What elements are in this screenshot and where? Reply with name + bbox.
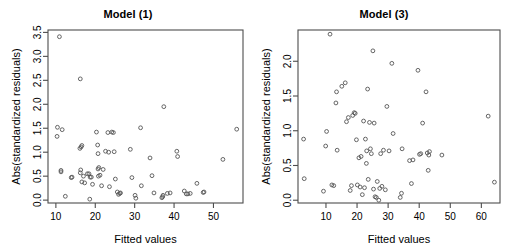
data-point <box>106 131 110 135</box>
data-point <box>139 126 143 130</box>
data-point <box>391 132 395 136</box>
x-axis-title: Fitted values <box>368 233 431 245</box>
data-point <box>366 87 370 91</box>
x-axis-title: Fitted values <box>114 233 177 245</box>
data-point <box>82 174 86 178</box>
data-point <box>235 127 239 131</box>
y-tick-label: 1.0 <box>32 145 43 159</box>
y-tick-label: 2.0 <box>32 97 43 111</box>
x-tick-label: 10 <box>50 211 62 222</box>
data-point <box>426 168 430 172</box>
data-point <box>108 185 112 189</box>
y-tick-label: 1.5 <box>282 89 293 103</box>
x-tick-label: 30 <box>383 211 395 222</box>
data-point <box>400 147 404 151</box>
data-point <box>128 147 132 151</box>
data-point <box>419 152 423 156</box>
data-point <box>366 177 370 181</box>
data-point <box>365 149 369 153</box>
y-tick-label: 1.5 <box>32 121 43 135</box>
data-point <box>355 138 359 142</box>
data-point <box>348 189 352 193</box>
data-point <box>377 198 381 202</box>
data-point <box>58 35 62 39</box>
data-point <box>400 191 404 195</box>
data-point <box>358 185 362 189</box>
data-point <box>335 90 339 94</box>
data-point <box>410 182 414 186</box>
data-point <box>176 155 180 159</box>
data-point <box>340 84 344 88</box>
data-point <box>387 149 391 153</box>
data-point <box>486 114 490 118</box>
data-point <box>371 49 375 53</box>
data-point <box>364 162 368 166</box>
scatter-plot-figure: Model (1) 10203040500.00.51.01.52.02.53.… <box>0 0 513 249</box>
y-tick-label: 0.0 <box>32 193 43 207</box>
data-point <box>346 116 350 120</box>
data-point <box>369 147 373 151</box>
x-tick-label: 40 <box>414 211 426 222</box>
data-point <box>421 121 425 125</box>
data-point <box>101 168 105 172</box>
data-point <box>130 176 134 180</box>
data-point <box>139 184 143 188</box>
data-point <box>152 191 156 195</box>
data-point <box>360 193 364 197</box>
y-tick-label: 2.5 <box>32 73 43 87</box>
data-point <box>148 156 152 160</box>
data-point <box>324 144 328 148</box>
data-point <box>322 189 326 193</box>
data-point <box>372 187 376 191</box>
data-point <box>390 61 394 65</box>
y-axis-title: Abs(standardized residuals) <box>10 48 22 184</box>
data-point <box>162 105 166 109</box>
data-point <box>385 105 389 109</box>
x-tick-label: 10 <box>320 211 332 222</box>
data-point <box>345 120 349 124</box>
data-point <box>302 177 306 181</box>
data-point <box>60 128 64 132</box>
data-point <box>398 196 402 200</box>
x-tick-label: 20 <box>90 211 102 222</box>
data-point <box>375 180 379 184</box>
data-point <box>302 137 306 141</box>
x-tick-label: 20 <box>351 211 363 222</box>
x-tick-label: 30 <box>129 211 141 222</box>
x-tick-label: 40 <box>168 211 180 222</box>
panel-model-1: Model (1) 10203040500.00.51.01.52.02.53.… <box>0 0 256 249</box>
data-point <box>56 125 60 129</box>
data-point <box>440 153 444 157</box>
x-tick-label: 60 <box>476 211 488 222</box>
data-point <box>334 101 338 105</box>
data-point <box>325 130 329 134</box>
plot-area-model-3: 1020304050600.00.51.01.52.0Fitted values… <box>256 0 513 249</box>
data-point <box>96 143 100 147</box>
data-point <box>88 197 92 201</box>
data-point <box>364 137 368 141</box>
y-tick-label: 0.0 <box>282 193 293 207</box>
data-point <box>368 121 372 125</box>
data-point <box>112 150 116 154</box>
data-point <box>113 177 117 181</box>
data-point <box>188 192 192 196</box>
data-point <box>175 149 179 153</box>
data-point <box>78 77 82 81</box>
data-point <box>362 119 366 123</box>
plot-frame <box>48 30 243 203</box>
y-tick-label: 3.0 <box>32 49 43 63</box>
plot-frame <box>298 30 500 203</box>
data-point <box>493 180 497 184</box>
y-tick-label: 0.5 <box>32 169 43 183</box>
data-point <box>416 68 420 72</box>
data-point <box>363 186 367 190</box>
data-point <box>379 152 383 156</box>
x-tick-label: 50 <box>445 211 457 222</box>
y-axis-title: Abs(standardized residuals) <box>260 48 272 184</box>
data-point <box>335 148 339 152</box>
panel-model-3: Model (3) 1020304050600.00.51.01.52.0Fit… <box>256 0 512 249</box>
data-point <box>150 174 154 178</box>
y-tick-label: 3.5 <box>32 25 43 39</box>
data-point <box>195 181 199 185</box>
data-point <box>55 134 59 138</box>
